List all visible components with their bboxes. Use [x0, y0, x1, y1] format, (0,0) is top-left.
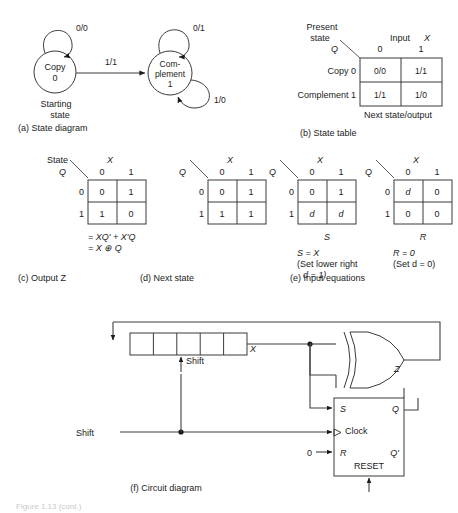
shift-input-label: Shift: [76, 428, 95, 438]
kmap-s-cell-1-0: d: [309, 209, 315, 219]
flipflop-s-label: S: [340, 404, 346, 414]
kmap-c-cell-1-1: 0: [128, 209, 133, 219]
clock-triangle-icon: [334, 429, 341, 436]
transition-label-1-0: 1/0: [214, 95, 226, 105]
shift-register: [130, 333, 247, 355]
kmap-c-col-header-0: 0: [99, 167, 104, 177]
kmap-r-col-var: X: [412, 155, 420, 165]
kmap-s-under-label: S: [324, 232, 330, 242]
kmap-s-row-var: Q: [269, 167, 276, 177]
kmap-c-cell-0-0: 0: [99, 187, 104, 197]
present-state-line2: state: [310, 33, 330, 43]
state-table-col-header-0: 0: [377, 44, 382, 54]
state-table-row-label-0: Copy 0: [327, 66, 356, 76]
kmap-d-corner-slash: [190, 160, 208, 178]
kmap-r-corner-slash: [376, 160, 394, 178]
register-output-label-x: X: [249, 344, 257, 354]
q-output-wire: [404, 398, 418, 410]
kmap-input-s: Q X 0 1 0 1 0 1 d d S S = X (Set lower r…: [269, 155, 366, 283]
kmap-c-col-header-1: 1: [128, 167, 133, 177]
kmap-c-cell-0-1: 1: [128, 187, 133, 197]
kmap-r-under-label: R: [420, 232, 427, 242]
kmap-c-row-var: Q: [59, 167, 66, 177]
kmap-s-cell-0-1: 1: [338, 187, 343, 197]
flipflop-r-label: R: [340, 448, 347, 458]
state-table-cell-1-1: 1/0: [415, 90, 427, 100]
caption-b: (b) State table: [300, 128, 357, 138]
kmap-c-cell-1-0: 1: [99, 209, 104, 219]
x-to-s-input-wire: [310, 344, 332, 408]
state-table-footer: Next state/output: [364, 110, 433, 120]
kmap-r-col-header-0: 0: [405, 167, 410, 177]
state-complement-label-line2: plement: [155, 69, 186, 79]
caption-f: (f) Circuit diagram: [130, 483, 202, 493]
transition-label-1-1: 1/1: [105, 57, 117, 67]
kmap-r-col-header-1: 1: [434, 167, 439, 177]
kmap-input-r: Q X 0 1 0 1 d 0 0 0 R R = 0 (Set d = 0): [365, 155, 452, 269]
state-copy-label-line2: 0: [52, 73, 57, 83]
register-shift-label: Shift: [186, 356, 205, 366]
kmap-d-col-var: X: [226, 155, 234, 165]
kmap-d-row-header-0: 0: [199, 187, 204, 197]
kmap-s-corner-slash: [280, 160, 298, 178]
state-node-copy: [34, 51, 76, 93]
caption-a: (a) State diagram: [18, 123, 88, 133]
kmap-r-row-header-1: 1: [385, 209, 390, 219]
flipflop-q-label: Q: [392, 404, 399, 414]
kmap-r-equation-0: R = 0: [393, 248, 415, 258]
state-table-q-symbol: Q: [331, 44, 338, 54]
kmap-r-cell-1-0: 0: [405, 209, 410, 219]
kmap-s-col-var: X: [316, 155, 324, 165]
z-output-feedback-wire: [372, 322, 440, 360]
kmap-r-cell-0-1: 0: [434, 187, 439, 197]
state-table-cell-0-0: 0/0: [374, 66, 386, 76]
kmap-s-col-header-0: 0: [309, 167, 314, 177]
state-complement-label-line1: Com-: [160, 59, 181, 69]
present-state-line1: Present: [306, 22, 338, 32]
kmap-d-cell-1-1: 1: [248, 209, 253, 219]
kmap-s-equation-1: (Set lower right: [297, 259, 358, 269]
transition-copy-self: [43, 30, 72, 57]
transition-complement-self-top: [159, 30, 189, 57]
xor-gate-body: [350, 332, 404, 388]
kmap-r-cell-0-0: d: [405, 187, 411, 197]
figure-bottom-caption: Figure 1.13 (cont.): [16, 502, 82, 511]
kmap-r-row-var: Q: [365, 167, 372, 177]
caption-e: (e) Input equations: [290, 273, 366, 283]
state-copy-label-line1: Copy: [44, 62, 66, 72]
xor-output-label-z: Z: [393, 364, 400, 374]
kmap-s-cell-0-0: 0: [309, 187, 314, 197]
caption-d: (d) Next state: [140, 273, 194, 283]
flipflop-qbar-label: Q': [390, 448, 399, 458]
state-table: Present state Q Input X 0 1 Copy 0 Compl…: [297, 22, 442, 138]
kmap-d-col-header-0: 0: [219, 167, 224, 177]
kmap-c-row-header-0: 0: [79, 187, 84, 197]
kmap-r-row-header-0: 0: [385, 187, 390, 197]
state-table-cell-1-0: 1/1: [374, 90, 386, 100]
x-to-xor-lower-wire: [310, 344, 336, 375]
state-complement-label-line3: 1: [168, 79, 173, 89]
state-table-input-symbol: X: [423, 33, 431, 43]
flipflop-clock-label: Clock: [345, 426, 368, 436]
kmap-output-z: State Q X 0 1 0 1 0 1 1 0 = XQ' + X'Q = …: [18, 155, 146, 283]
kmap-c-row-header-1: 1: [79, 209, 84, 219]
kmap-c-corner-slash: [70, 160, 88, 178]
xor-gate-back-arc: [344, 332, 350, 388]
state-table-col-header-1: 1: [418, 44, 423, 54]
r-input-value: 0: [307, 448, 312, 458]
kmap-d-cell-0-0: 0: [219, 187, 224, 197]
starting-state-line1: Starting: [40, 99, 71, 109]
kmap-s-cell-1-1: d: [338, 209, 344, 219]
state-table-cell-0-1: 1/1: [415, 66, 427, 76]
transition-label-0-0: 0/0: [76, 23, 88, 33]
figure-svg: Copy 0 0/0 1/1 Starting state Com- pleme…: [0, 0, 458, 513]
starting-state-line2: state: [50, 110, 70, 120]
kmap-s-row-header-1: 1: [289, 209, 294, 219]
kmap-d-cell-0-1: 1: [248, 187, 253, 197]
kmap-d-cell-1-0: 1: [219, 209, 224, 219]
kmap-next-state: Q X 0 1 0 1 0 1 1 1 (d) Next state: [140, 155, 266, 283]
kmap-r-cell-1-1: 0: [434, 209, 439, 219]
kmap-r-equation-1: (Set d = 0): [393, 259, 435, 269]
caption-c: (c) Output Z: [18, 273, 67, 283]
kmap-c-corner-label: State: [47, 155, 68, 165]
